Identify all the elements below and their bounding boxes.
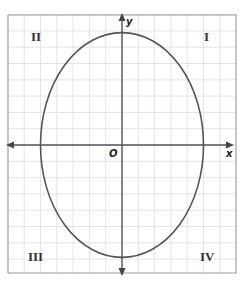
y-axis-label: y: [126, 16, 133, 27]
x-axis-label: x: [225, 148, 233, 159]
x-axis-left-arrow-icon: [6, 142, 14, 149]
coordinate-plane: y x O II I III IV: [0, 0, 246, 290]
y-axis-down-arrow-icon: [119, 268, 126, 276]
quadrant-label-I: I: [204, 29, 209, 44]
quadrant-label-III: III: [28, 249, 43, 264]
quadrant-label-II: II: [31, 29, 41, 44]
quadrant-label-IV: IV: [200, 249, 215, 264]
origin-label: O: [109, 148, 118, 159]
